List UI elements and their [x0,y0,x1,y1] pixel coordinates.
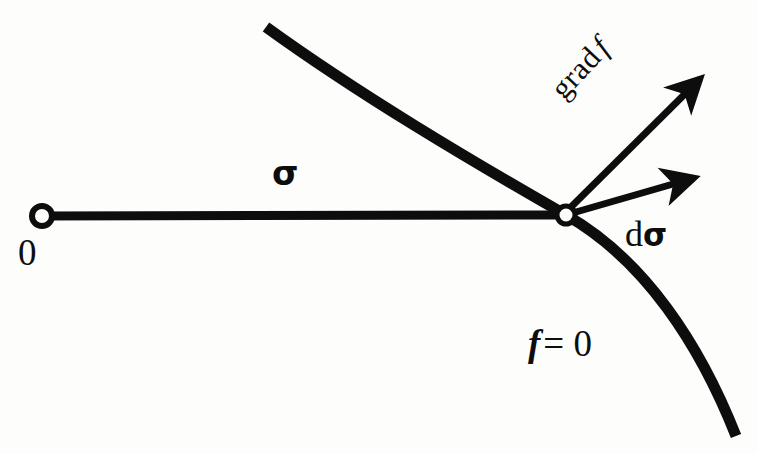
intersection-point-marker [557,206,575,224]
math-diagram-figure: 0 σ dσ f= 0 gradf [0,0,757,454]
origin-label: 0 [18,234,37,271]
origin-point-marker [32,206,52,226]
ray-sigma [42,215,566,216]
sigma-ray-label: σ [272,156,298,190]
level-set-f-glyph: f [528,323,543,364]
gradient-vector-arrow [570,79,700,208]
level-set-equals-zero: = 0 [543,323,592,364]
dsigma-d-glyph: d [625,214,643,254]
level-set-label: f= 0 [528,325,592,362]
dsigma-label: dσ [625,216,667,252]
dsigma-sigma-glyph: σ [643,217,667,253]
